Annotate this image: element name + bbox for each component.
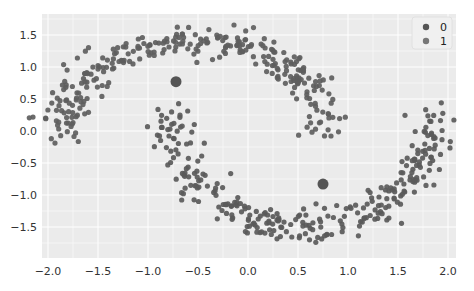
point-class-1 — [229, 212, 234, 217]
point-class-0 — [90, 65, 95, 70]
point-class-1 — [447, 145, 452, 150]
x-tick-label: −1.5 — [85, 265, 112, 278]
point-class-1 — [176, 101, 181, 106]
point-class-1 — [224, 202, 229, 207]
point-class-1 — [171, 121, 176, 126]
point-class-0 — [55, 96, 60, 101]
point-class-1 — [202, 141, 207, 146]
point-class-1 — [271, 228, 276, 233]
point-class-1 — [192, 122, 197, 127]
point-class-1 — [194, 183, 199, 188]
point-class-1 — [420, 156, 425, 161]
point-class-0 — [308, 102, 313, 107]
point-class-1 — [216, 204, 221, 209]
point-class-0 — [61, 62, 66, 67]
point-class-0 — [86, 110, 91, 115]
y-tick-label: 1.5 — [20, 29, 38, 42]
point-class-1 — [383, 187, 388, 192]
point-class-0 — [266, 54, 271, 59]
point-class-1 — [415, 147, 420, 152]
point-class-1 — [181, 191, 186, 196]
point-class-1 — [370, 199, 375, 204]
point-class-0 — [320, 88, 325, 93]
point-class-0 — [136, 36, 141, 41]
point-class-1 — [203, 173, 208, 178]
point-class-0 — [326, 111, 331, 116]
point-class-1 — [178, 125, 183, 130]
point-class-0 — [43, 116, 48, 121]
point-class-1 — [229, 204, 234, 209]
point-class-1 — [431, 182, 436, 187]
point-class-1 — [215, 181, 220, 186]
point-class-0 — [64, 121, 69, 126]
point-class-0 — [65, 68, 70, 73]
point-class-1 — [334, 203, 339, 208]
point-class-0 — [50, 90, 55, 95]
point-class-0 — [291, 78, 296, 83]
point-class-1 — [278, 225, 283, 230]
point-class-1 — [318, 225, 323, 230]
point-class-1 — [313, 201, 318, 206]
point-class-0 — [243, 37, 248, 42]
point-class-1 — [340, 225, 345, 230]
point-class-1 — [383, 205, 388, 210]
point-class-0 — [273, 61, 278, 66]
point-class-1 — [392, 196, 397, 201]
point-class-1 — [437, 167, 442, 172]
point-class-1 — [184, 141, 189, 146]
point-class-1 — [414, 163, 419, 168]
point-class-1 — [431, 113, 436, 118]
point-class-0 — [220, 38, 225, 43]
point-class-1 — [186, 174, 191, 179]
point-class-1 — [175, 129, 180, 134]
point-class-1 — [266, 219, 271, 224]
point-class-0 — [188, 42, 193, 47]
point-class-1 — [398, 193, 403, 198]
point-class-1 — [177, 113, 182, 118]
point-class-1 — [198, 177, 203, 182]
point-class-0 — [58, 133, 63, 138]
point-class-0 — [217, 55, 222, 60]
point-class-0 — [296, 67, 301, 72]
point-class-1 — [297, 213, 302, 218]
point-class-0 — [64, 82, 69, 87]
point-class-1 — [409, 170, 414, 175]
x-tick-label: 2.0 — [439, 265, 457, 278]
point-class-1 — [365, 202, 370, 207]
point-class-0 — [141, 41, 146, 46]
point-class-0 — [317, 83, 322, 88]
x-tick-label: 0.5 — [289, 265, 307, 278]
point-class-1 — [402, 189, 407, 194]
point-class-1 — [422, 129, 427, 134]
point-class-1 — [440, 128, 445, 133]
point-class-1 — [344, 206, 349, 211]
y-axis-ticks: 1.51.00.50.0−0.5−1.0−1.5 — [10, 29, 37, 234]
point-class-1 — [164, 116, 169, 121]
point-class-0 — [185, 46, 190, 51]
point-class-1 — [152, 144, 157, 149]
point-class-0 — [296, 56, 301, 61]
point-class-1 — [423, 183, 428, 188]
y-tick-label: 0.0 — [20, 125, 38, 138]
point-class-1 — [310, 227, 315, 232]
y-tick-label: −1.5 — [10, 221, 37, 234]
point-class-0 — [261, 54, 266, 59]
point-class-1 — [303, 231, 308, 236]
point-class-0 — [272, 50, 277, 55]
point-class-1 — [420, 149, 425, 154]
point-class-1 — [168, 149, 173, 154]
point-class-0 — [231, 22, 236, 27]
point-class-0 — [317, 73, 322, 78]
highlighted-point — [318, 179, 329, 190]
point-class-1 — [438, 152, 443, 157]
point-class-0 — [62, 110, 67, 115]
point-class-0 — [336, 129, 341, 134]
point-class-0 — [74, 96, 79, 101]
point-class-1 — [384, 196, 389, 201]
point-class-0 — [294, 73, 299, 78]
point-class-1 — [262, 211, 267, 216]
point-class-1 — [421, 174, 426, 179]
x-tick-label: 0.0 — [239, 265, 257, 278]
point-class-0 — [237, 43, 242, 48]
point-class-0 — [292, 62, 297, 67]
